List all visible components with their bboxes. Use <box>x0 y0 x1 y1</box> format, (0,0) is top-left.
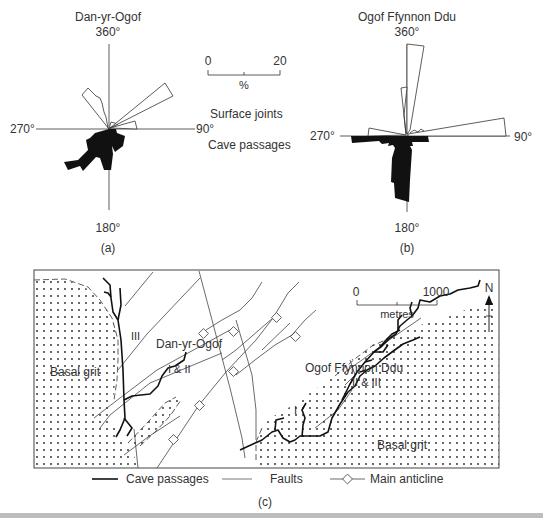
legend-cave-passages-label: Cave passages <box>126 472 209 486</box>
passage-i-ii-label: I & II <box>168 363 191 375</box>
figure-canvas: Dan-yr-Ogof 360° 270° 90° 180° (a) 0 20 … <box>0 0 543 518</box>
bottom-strip <box>0 513 543 518</box>
map-legend: Cave passages Faults Main anticline <box>92 472 444 486</box>
rose-a-passages <box>64 129 125 171</box>
surface-joints-label: Surface joints <box>210 107 283 121</box>
cave-passages-label: Cave passages <box>208 138 291 152</box>
passage-iii-label: III <box>131 330 140 342</box>
rose-a-joints-nw <box>82 88 109 129</box>
dan-yr-ogof-label: Dan-yr-Ogof <box>156 337 223 351</box>
rose-a-title: Dan-yr-Ogof <box>75 10 142 24</box>
rose-a-east-label: 90° <box>196 122 214 136</box>
map-caption: (c) <box>258 495 272 509</box>
rose-legend: 0 20 % Surface joints Cave passages <box>205 54 291 152</box>
basal-grit-west-label: Basal grit <box>50 365 101 379</box>
map-scale-max: 1000 <box>423 285 450 299</box>
map-scale-unit: metres <box>380 308 414 320</box>
rose-b-title: Ogof Ffynnon Ddu <box>358 10 456 24</box>
rose-a-south-label: 180° <box>96 221 121 235</box>
rose-b-joints-n <box>407 44 424 134</box>
rose-b-east-label: 90° <box>514 130 532 144</box>
rose-scale-bar <box>208 70 280 75</box>
passage-ii-iii-label: II & III <box>352 376 381 388</box>
rose-b-north-label: 360° <box>395 25 420 39</box>
rose-b-caption: (b) <box>400 241 415 255</box>
rose-b-passages <box>351 136 429 202</box>
rose-b-joints-nnw <box>401 87 407 134</box>
legend-anticline-swatch <box>330 474 365 484</box>
map-scale-min: 0 <box>353 285 360 299</box>
rose-diagram-b: Ogof Ffynnon Ddu 360° 270° 90° 180° (b) <box>310 10 532 255</box>
anticline-marker <box>291 332 301 342</box>
rose-scale-min: 0 <box>205 54 212 68</box>
rose-b-west-label: 270° <box>310 129 335 143</box>
rose-b-joints-e <box>408 118 506 136</box>
rose-a-caption: (a) <box>101 241 116 255</box>
anticline-marker <box>272 313 282 323</box>
anticline-marker <box>169 435 179 445</box>
rose-a-joints-ne <box>110 83 173 128</box>
rose-b-joints-w <box>368 128 406 136</box>
north-label: N <box>485 281 494 295</box>
rose-a-west-label: 270° <box>10 122 35 136</box>
geological-map: Basal grit III Dan-yr-Ogof I & II Ogof F… <box>34 270 499 509</box>
legend-faults-label: Faults <box>270 472 303 486</box>
rose-b-south-label: 180° <box>395 221 420 235</box>
passage-i-label: I <box>294 404 297 416</box>
rose-scale-max: 20 <box>273 54 287 68</box>
ogof-ffynnon-ddu-label: Ogof Ffynnon Ddu <box>305 361 403 375</box>
rose-scale-unit: % <box>239 79 249 91</box>
rose-diagram-a: Dan-yr-Ogof 360° 270° 90° 180° (a) <box>10 10 214 255</box>
anticline-marker <box>229 327 239 337</box>
basal-grit-east-label: Basal grit <box>377 438 428 452</box>
legend-anticline-label: Main anticline <box>370 472 444 486</box>
rose-a-north-label: 360° <box>96 25 121 39</box>
